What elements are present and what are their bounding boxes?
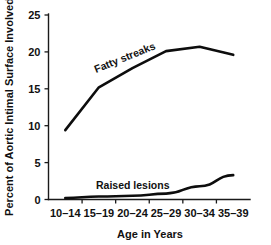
- data-series-group: [65, 47, 233, 198]
- x-axis: 10–1415–1920–2425–2930–3435–39 Age in Ye…: [49, 200, 251, 241]
- series-label-0: Fatty streaks: [92, 39, 157, 74]
- x-tick-label: 25–29: [151, 207, 182, 219]
- x-axis-title: Age in Years: [117, 228, 183, 240]
- series-annotations: Fatty streaksRaised lesions: [92, 39, 169, 191]
- x-axis-ticks: 10–1415–1920–2425–2930–3435–39: [50, 200, 249, 219]
- y-axis-title: Percent of Aortic Intimal Surface Involv…: [3, 0, 15, 216]
- series-line-0: [65, 47, 233, 130]
- x-tick-label: 10–14: [50, 207, 81, 219]
- x-tick-label: 15–19: [84, 207, 115, 219]
- x-tick-label: 30–34: [184, 207, 215, 219]
- y-tick-label: 25: [28, 9, 40, 21]
- y-axis: 0510152025 Percent of Aortic Intimal Sur…: [3, 0, 49, 216]
- y-tick-label: 0: [34, 194, 40, 206]
- x-tick-label: 20–24: [117, 207, 148, 219]
- chart-figure: 0510152025 Percent of Aortic Intimal Sur…: [0, 0, 271, 245]
- y-tick-label: 15: [28, 83, 40, 95]
- series-label-1: Raised lesions: [96, 179, 170, 191]
- chart-canvas: 0510152025 Percent of Aortic Intimal Sur…: [0, 0, 271, 245]
- y-axis-ticks: 0510152025: [28, 9, 48, 206]
- y-tick-label: 20: [28, 46, 40, 58]
- y-tick-label: 5: [34, 157, 40, 169]
- y-tick-label: 10: [28, 120, 40, 132]
- x-tick-label: 35–39: [218, 207, 249, 219]
